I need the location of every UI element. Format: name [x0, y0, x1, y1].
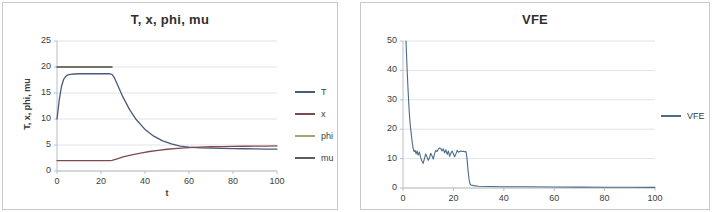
- legend-label: VFE: [687, 111, 705, 121]
- x-tick-label: 40: [130, 176, 160, 186]
- chart-panel-right: VFE 50403020100 020406080100 VFE: [360, 2, 710, 210]
- x-tick-label: 0: [42, 176, 72, 186]
- y-tick-label: 10: [29, 113, 51, 123]
- chart-panel-left: T, x, phi, mu 2520151050 020406080100 T,…: [2, 2, 338, 210]
- legend-swatch-icon: [295, 91, 315, 93]
- x-tick-label: 100: [262, 176, 292, 186]
- plot-area-right: [403, 41, 655, 188]
- legend-label: x: [321, 109, 326, 119]
- panel-divider: [338, 0, 360, 212]
- x-tick-label: 20: [86, 176, 116, 186]
- x-tick-label: 80: [218, 176, 248, 186]
- chart-svg: [403, 41, 655, 188]
- x-tick-label: 20: [438, 193, 468, 203]
- chart-title-left: T, x, phi, mu: [3, 12, 337, 27]
- y-tick-label: 20: [375, 123, 397, 133]
- figure-container: T, x, phi, mu 2520151050 020406080100 T,…: [0, 0, 712, 212]
- legend-label: T: [321, 87, 327, 97]
- y-tick-label: 30: [375, 94, 397, 104]
- x-axis-label-left: t: [57, 188, 277, 198]
- x-tick-label: 80: [590, 193, 620, 203]
- legend-label: phi: [321, 131, 333, 141]
- x-tick-label: 60: [539, 193, 569, 203]
- y-tick-label: 0: [29, 165, 51, 175]
- y-tick-label: 40: [375, 64, 397, 74]
- legend-item-phi[interactable]: phi: [295, 125, 334, 147]
- legend-item-x[interactable]: x: [295, 103, 334, 125]
- x-tick-label: 60: [174, 176, 204, 186]
- legend-right: VFE: [661, 105, 705, 127]
- legend-item-T[interactable]: T: [295, 81, 334, 103]
- plot-area-left: [57, 41, 277, 171]
- x-tick-label: 0: [388, 193, 418, 203]
- chart-svg: [57, 41, 277, 171]
- legend-swatch-icon: [295, 113, 315, 115]
- y-tick-label: 5: [29, 139, 51, 149]
- y-tick-label: 0: [375, 182, 397, 192]
- legend-swatch-icon: [295, 135, 315, 137]
- x-tick-label: 40: [489, 193, 519, 203]
- legend-swatch-icon: [661, 115, 681, 117]
- y-tick-label: 25: [29, 35, 51, 45]
- y-tick-label: 50: [375, 35, 397, 45]
- y-tick-label: 20: [29, 61, 51, 71]
- series-line-T: [57, 74, 277, 149]
- y-tick-label: 15: [29, 87, 51, 97]
- y-axis-label-left: T, x, phi, mu: [22, 64, 32, 144]
- y-tick-label: 10: [375, 153, 397, 163]
- x-tick-label: 100: [640, 193, 670, 203]
- chart-title-right: VFE: [361, 12, 709, 27]
- series-line-VFE: [406, 41, 655, 187]
- legend-swatch-icon: [295, 157, 315, 159]
- legend-item-VFE[interactable]: VFE: [661, 105, 705, 127]
- legend-left: Txphimu: [295, 81, 334, 169]
- legend-label: mu: [321, 153, 334, 163]
- legend-item-mu[interactable]: mu: [295, 147, 334, 169]
